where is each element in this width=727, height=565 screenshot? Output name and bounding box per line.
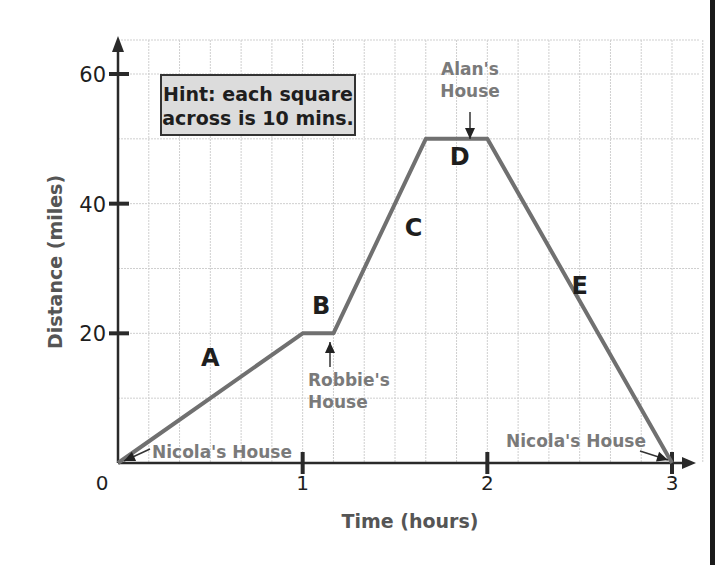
annotation-label: Nicola's House [506, 431, 646, 451]
page-border [710, 0, 715, 565]
distance-time-graph: 0123204060 Nicola's HouseRobbie'sHouseAl… [0, 0, 727, 565]
segment-label-c: C [405, 214, 423, 242]
x-tick-label: 3 [666, 471, 679, 495]
x-tick-label: 1 [296, 471, 309, 495]
annotation-line: Robbie's [308, 370, 390, 390]
x-axis-label: Time (hours) [342, 510, 479, 532]
annotation-label: Nicola's House [152, 442, 292, 462]
annotation-label: Robbie'sHouse [308, 370, 390, 412]
x-tick-label: 0 [96, 471, 109, 495]
segment-label-a: A [201, 344, 220, 372]
annotation-label: Alan'sHouse [440, 59, 500, 101]
y-tick-label: 60 [79, 63, 106, 87]
segment-label-e: E [571, 272, 587, 300]
annotation-line: House [440, 81, 500, 101]
annotation-line: Nicola's House [506, 431, 646, 451]
annotation-line: Nicola's House [152, 442, 292, 462]
annotation-line: Alan's [441, 59, 499, 79]
segment-labels: ABCDE [201, 143, 588, 372]
annotation-line: House [308, 392, 368, 412]
x-tick-label: 2 [481, 471, 494, 495]
y-tick-label: 40 [79, 193, 106, 217]
x-axis-arrow-icon [682, 457, 696, 469]
y-tick-label: 20 [79, 322, 106, 346]
y-axis-label: Distance (miles) [44, 175, 66, 349]
y-axis-arrow-icon [112, 36, 124, 52]
hint-text: Hint: each square across is 10 mins. [162, 82, 354, 130]
segment-label-d: D [450, 143, 470, 171]
segment-label-b: B [312, 292, 330, 320]
hint-box: Hint: each square across is 10 mins. [160, 74, 356, 136]
